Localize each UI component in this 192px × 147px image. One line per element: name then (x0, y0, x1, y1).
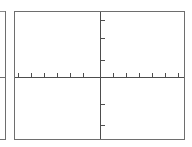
plot-area (15, 12, 184, 139)
x-axis-tick (178, 73, 179, 77)
x-axis-tick (113, 73, 114, 77)
x-axis-tick (44, 73, 45, 77)
adjacent-panel-x-axis (0, 77, 6, 78)
adjacent-panel-right-edge (5, 11, 6, 140)
figure-canvas (0, 0, 192, 147)
plot-frame (14, 11, 185, 140)
x-axis-tick (70, 73, 71, 77)
x-axis-tick (139, 73, 140, 77)
x-axis-tick (18, 73, 19, 77)
x-axis-tick (100, 73, 101, 77)
y-axis-tick (101, 20, 105, 21)
y-axis-tick (101, 125, 105, 126)
x-axis-tick (165, 73, 166, 77)
x-axis-tick (126, 73, 127, 77)
y-axis-tick (101, 38, 105, 39)
x-axis-tick (152, 73, 153, 77)
y-axis-tick (101, 104, 105, 105)
adjacent-panel-bottom-edge (0, 139, 6, 140)
x-axis-tick (83, 73, 84, 77)
adjacent-cropped-panel (0, 11, 6, 140)
y-axis-tick (101, 60, 105, 61)
x-axis-tick (31, 73, 32, 77)
x-axis-tick (57, 73, 58, 77)
